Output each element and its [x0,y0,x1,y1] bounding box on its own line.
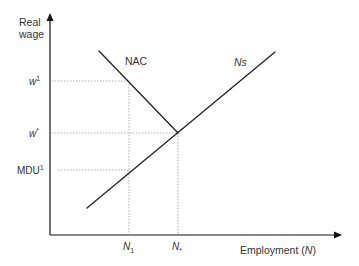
x-axis-arrow-icon [334,232,342,239]
tick-nstar: N* [172,242,182,254]
diagram-canvas [0,0,359,266]
tick-n1: N1 [123,242,134,254]
ns-curve [87,52,275,208]
y-axis-label: Real wage [19,16,44,40]
y-axis-label-line1: Real [19,16,44,28]
tick-w1: w1 [29,75,40,87]
ns-label: Ns [234,57,247,68]
y-axis-arrow-icon [47,13,54,21]
tick-wstar: w* [29,127,39,139]
nac-label: NAC [125,56,147,67]
tick-mdu1: MDU1 [17,164,44,176]
x-axis-label: Employment (N) [240,245,316,256]
y-axis-label-line2: wage [19,28,44,40]
